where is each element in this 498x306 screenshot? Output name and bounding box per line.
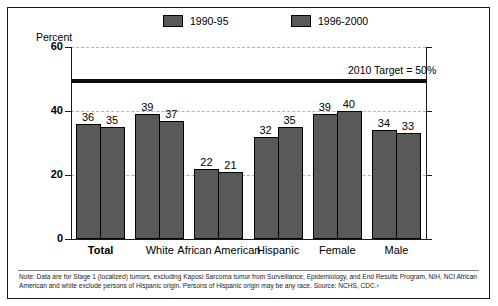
bar-value-label: 35 bbox=[277, 114, 303, 126]
bar-value-label: 39 bbox=[312, 101, 338, 113]
bar bbox=[337, 111, 362, 239]
y-axis-tick bbox=[65, 175, 71, 176]
footnote-divider bbox=[18, 270, 479, 271]
gridline bbox=[71, 47, 426, 48]
bar-value-label: 36 bbox=[75, 111, 101, 123]
bar bbox=[135, 114, 160, 239]
bar bbox=[396, 133, 421, 239]
legend-label: 1990-95 bbox=[190, 15, 229, 27]
bar-value-label: 33 bbox=[395, 120, 421, 132]
y-axis-tick bbox=[65, 47, 71, 48]
legend-item-1990-95: 1990-95 bbox=[163, 12, 229, 30]
y-axis-tick-right bbox=[426, 239, 432, 240]
legend-swatch-icon bbox=[291, 15, 311, 27]
bar-value-label: 39 bbox=[134, 101, 160, 113]
bar-value-label: 35 bbox=[99, 114, 125, 126]
y-axis-tick-label: 0 bbox=[37, 232, 63, 244]
legend-swatch-icon bbox=[163, 15, 183, 27]
bar bbox=[76, 124, 101, 239]
bar bbox=[278, 127, 303, 239]
y-axis-tick-label: 20 bbox=[37, 168, 63, 180]
y-axis-tick-right bbox=[426, 47, 432, 48]
y-axis-tick bbox=[65, 111, 71, 112]
bar bbox=[313, 114, 338, 239]
bar-value-label: 22 bbox=[193, 156, 219, 168]
bar bbox=[372, 130, 397, 239]
bar-value-label: 21 bbox=[217, 159, 243, 171]
bar-value-label: 32 bbox=[253, 124, 279, 136]
bar bbox=[218, 172, 243, 239]
footnote-text: Note: Data are for Stage 1 (localized) t… bbox=[19, 272, 481, 290]
y-axis-tick bbox=[65, 239, 71, 240]
y-axis-tick-label: 40 bbox=[37, 104, 63, 116]
bar bbox=[159, 121, 184, 239]
target-line-label: 2010 Target = 50% bbox=[348, 64, 436, 76]
bar-value-label: 37 bbox=[158, 108, 184, 120]
y-axis-tick-right bbox=[426, 111, 432, 112]
chart-figure: 1990-95 1996-2000 Percent 36353937222132… bbox=[7, 7, 490, 299]
target-line bbox=[72, 79, 427, 83]
bar bbox=[194, 169, 219, 239]
bar bbox=[100, 127, 125, 239]
x-axis-line bbox=[71, 239, 427, 240]
y-axis-tick-label: 60 bbox=[37, 40, 63, 52]
y-axis-tick-right bbox=[426, 175, 432, 176]
bar-value-label: 40 bbox=[336, 98, 362, 110]
chart-legend: 1990-95 1996-2000 bbox=[8, 12, 489, 32]
y-axis-line bbox=[71, 47, 72, 239]
bar bbox=[254, 137, 279, 239]
legend-item-1996-2000: 1996-2000 bbox=[291, 12, 368, 30]
legend-label: 1996-2000 bbox=[318, 15, 368, 27]
gridline bbox=[71, 111, 426, 112]
bar-value-label: 34 bbox=[371, 117, 397, 129]
x-axis-category-label: Male bbox=[353, 244, 439, 257]
